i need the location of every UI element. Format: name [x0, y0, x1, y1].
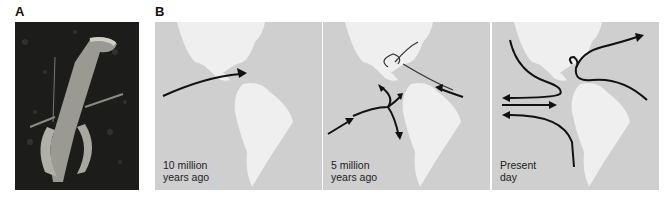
map-caption: 10 million years ago — [163, 159, 209, 183]
arrow-head-icon — [237, 68, 247, 78]
south-america-land — [235, 83, 293, 187]
map-present-day: Present day — [492, 22, 659, 190]
panel-a-label: A — [15, 4, 24, 19]
map-caption: Present day — [500, 159, 536, 183]
map-caption: 5 million years ago — [331, 159, 377, 183]
map-5-million-years-ago: 5 million years ago — [323, 22, 490, 190]
north-america-land — [177, 22, 265, 74]
shrimp-photo — [15, 22, 139, 190]
map-10-million-years-ago: 10 million years ago — [155, 22, 322, 190]
panel-b-label: B — [155, 4, 164, 19]
